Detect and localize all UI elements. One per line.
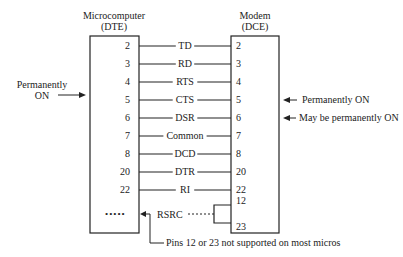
dce-pin: 3 [236,58,241,69]
dte-pin: 2 [125,40,130,51]
cts-note: Permanently ON [302,94,370,105]
left-note-line1: Permanently [17,79,68,90]
signal-name: DCD [174,148,195,159]
signal-name: RI [180,184,190,195]
dte-pin: 6 [125,112,130,123]
arrow-left-icon [283,97,290,103]
dce-pin-23: 23 [236,221,246,232]
dte-pin: 5 [125,94,130,105]
left-note-line2: ON [35,90,49,101]
dce-pin: 22 [236,184,246,195]
signal-name: RD [178,58,192,69]
rsrc-bracket [214,205,231,223]
signal-row: 8DCD8 [125,148,241,160]
dte-title: Microcomputer [83,10,146,21]
dce-pin: 4 [236,76,241,87]
dce-pin: 7 [236,130,241,141]
rsrc-label: RSRC [157,209,183,220]
dte-pin: 22 [120,184,130,195]
dte-pin: 7 [125,130,130,141]
signal-name: Common [166,130,203,141]
dsr-note: May be permanently ON [299,112,399,123]
dce-pin: 8 [236,148,241,159]
signal-name: CTS [176,94,194,105]
dce-title: Modem [239,10,270,21]
dce-pin: 20 [236,166,246,177]
rsrc-arrowhead-icon [140,211,146,217]
dce-pin: 5 [236,94,241,105]
dte-pin: 20 [120,166,130,177]
footnote-text: Pins 12 or 23 not supported on most micr… [166,237,341,248]
signal-name: DTR [175,166,195,177]
signal-row: 2TD2 [125,40,241,52]
arrow-right-icon [79,92,86,98]
dte-pin: 4 [125,76,130,87]
signal-row: 6DSR6 [125,112,241,124]
dce-subtitle: (DCE) [242,21,269,33]
signal-row: 7Common7 [125,130,241,142]
dte-box [90,36,139,233]
dce-pin: 6 [236,112,241,123]
signal-name: TD [178,40,191,51]
rs232-wiring-diagram: Microcomputer (DTE) Modem (DCE) 2TD23RD3… [0,0,403,257]
rsrc-dots: ••••• [105,209,126,219]
signal-row: 5CTS5 [125,94,241,106]
arrow-left-icon [283,115,290,121]
dte-subtitle: (DTE) [101,21,127,33]
signal-name: RTS [176,76,194,87]
dce-pin-12: 12 [236,195,246,206]
signal-name: DSR [175,112,195,123]
dce-pin: 2 [236,40,241,51]
dte-pin: 3 [125,58,130,69]
dte-pin: 8 [125,148,130,159]
signal-row: 3RD3 [125,58,241,70]
signal-row: 4RTS4 [125,76,241,88]
